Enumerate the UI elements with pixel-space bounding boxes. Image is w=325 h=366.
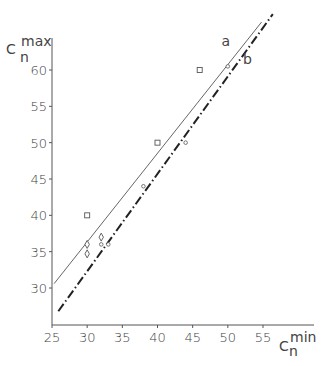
circle-marker <box>99 243 103 247</box>
diamond-marker <box>99 233 103 241</box>
y-tick-label: 50 <box>30 136 47 151</box>
y-tick-label: 35 <box>30 245 47 260</box>
x-tick-label: 55 <box>255 330 272 345</box>
y-tick-label: 55 <box>30 99 47 114</box>
axis-labels: CmaxnCminn <box>6 33 316 359</box>
x-tick-label: 25 <box>44 330 61 345</box>
y-tick-label: 45 <box>30 172 47 187</box>
line-label-a: a <box>221 33 230 49</box>
circle-marker <box>106 243 110 247</box>
fit-lines: ab <box>54 14 273 311</box>
square-marker <box>155 140 160 145</box>
circle-marker <box>184 141 188 145</box>
y-axis-title-sup: max <box>21 33 52 49</box>
x-axis-title: C <box>279 338 289 354</box>
circle-marker <box>226 65 230 69</box>
x-tick-label: 45 <box>184 330 201 345</box>
y-axis-title: C <box>6 41 16 57</box>
x-tick-label: 50 <box>220 330 237 345</box>
line-b <box>58 14 273 311</box>
circle-marker <box>142 184 146 188</box>
x-axis-title-sub: n <box>289 343 298 359</box>
square-marker <box>85 213 90 218</box>
axes: 3035404550556025303540455055 <box>30 38 314 345</box>
line-label-b: b <box>243 51 252 67</box>
y-axis-title-sub: n <box>20 49 29 65</box>
x-tick-label: 40 <box>149 330 166 345</box>
x-tick-label: 30 <box>79 330 96 345</box>
square-marker <box>197 68 202 73</box>
y-tick-label: 30 <box>30 281 47 296</box>
data-points <box>85 65 230 258</box>
y-tick-label: 60 <box>30 63 47 78</box>
x-tick-label: 35 <box>114 330 131 345</box>
scatter-chart: 3035404550556025303540455055 ab CmaxnCmi… <box>0 0 325 366</box>
diamond-marker <box>85 250 89 258</box>
y-tick-label: 40 <box>30 208 47 223</box>
diamond-marker <box>85 240 89 248</box>
